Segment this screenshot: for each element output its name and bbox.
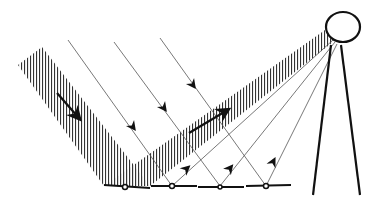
reflected-beam	[104, 30, 333, 186]
heliostat-3	[198, 185, 244, 189]
arrow-up-right-icon	[223, 161, 237, 175]
reflected-ray-1	[172, 40, 333, 186]
receiver-icon	[326, 12, 360, 42]
pivot-icon	[218, 185, 222, 189]
pivot-icon	[123, 185, 128, 190]
tower-left-leg	[313, 45, 331, 195]
incident-beam	[18, 47, 150, 186]
heliostat-4	[246, 184, 291, 189]
tower-right-leg	[341, 45, 360, 195]
pivot-icon	[170, 184, 175, 189]
heliostat-2	[151, 184, 197, 189]
reflected-rays	[172, 40, 337, 186]
arrow-down-right-icon	[186, 78, 200, 92]
incident-ray-arrowheads	[126, 78, 200, 134]
solar-tower-diagram	[0, 0, 378, 208]
arrow-down-right-icon	[126, 120, 140, 134]
pivot-icon	[264, 184, 269, 189]
